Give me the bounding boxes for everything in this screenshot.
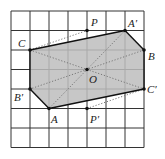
point-label: B [148, 50, 155, 62]
point-marker [85, 107, 89, 111]
point-marker [47, 107, 51, 111]
point-label: C′ [147, 83, 157, 95]
point-marker [85, 68, 89, 72]
point-marker [28, 87, 32, 91]
point-label: A [50, 113, 58, 125]
point-marker [28, 48, 32, 52]
point-marker [123, 29, 127, 33]
point-label: C [18, 37, 26, 49]
point-marker [142, 87, 146, 91]
point-label: B′ [14, 91, 24, 103]
point-label: P [90, 16, 98, 28]
point-marker [85, 29, 89, 33]
point-label: A′ [127, 17, 138, 29]
point-marker [142, 48, 146, 52]
rotation-diagram: CPA′BOB′C′AP′ [0, 0, 165, 159]
point-label: O [89, 73, 97, 85]
point-label: P′ [89, 113, 100, 125]
